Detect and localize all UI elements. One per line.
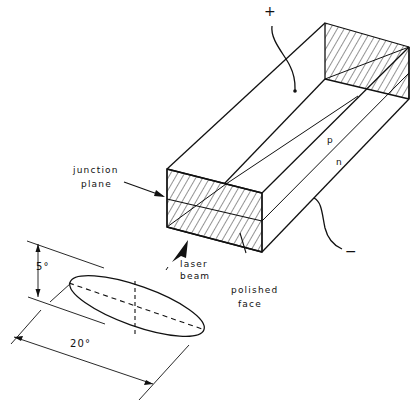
laser-beam-label-line1: laser: [180, 260, 208, 269]
junction-side-line: [262, 73, 409, 221]
top-left-edge: [167, 23, 325, 169]
positive-terminal-label: +: [264, 4, 276, 18]
junction-plane-label-line2: plane: [81, 180, 112, 189]
diagram-drawing: [0, 0, 420, 408]
laser-diode-diagram: + − p n junction plane laser beam polish…: [0, 0, 420, 408]
back-facet: [325, 23, 409, 99]
p-stripe-line: [226, 96, 358, 184]
inner-edge: [224, 79, 325, 184]
polished-face-label-line2: face: [238, 300, 262, 309]
positive-lead: [272, 26, 295, 90]
horizontal-divergence-label: 20°: [70, 339, 91, 349]
polished-front-facet: [167, 169, 262, 252]
horizontal-divergence-dimension: [11, 310, 189, 400]
laser-beam-label-line2: beam: [180, 272, 210, 281]
junction-plane-label-line1: junction: [73, 166, 119, 175]
n-region-label: n: [336, 158, 343, 167]
laser-beam-tail: [166, 267, 168, 270]
polished-face-label-line1: polished: [231, 286, 278, 295]
vertical-divergence-dimension: [27, 241, 105, 324]
vertical-divergence-label: 5°: [36, 262, 50, 272]
negative-terminal-label: −: [345, 244, 357, 258]
p-region-label: p: [327, 136, 334, 145]
negative-lead: [314, 198, 342, 249]
